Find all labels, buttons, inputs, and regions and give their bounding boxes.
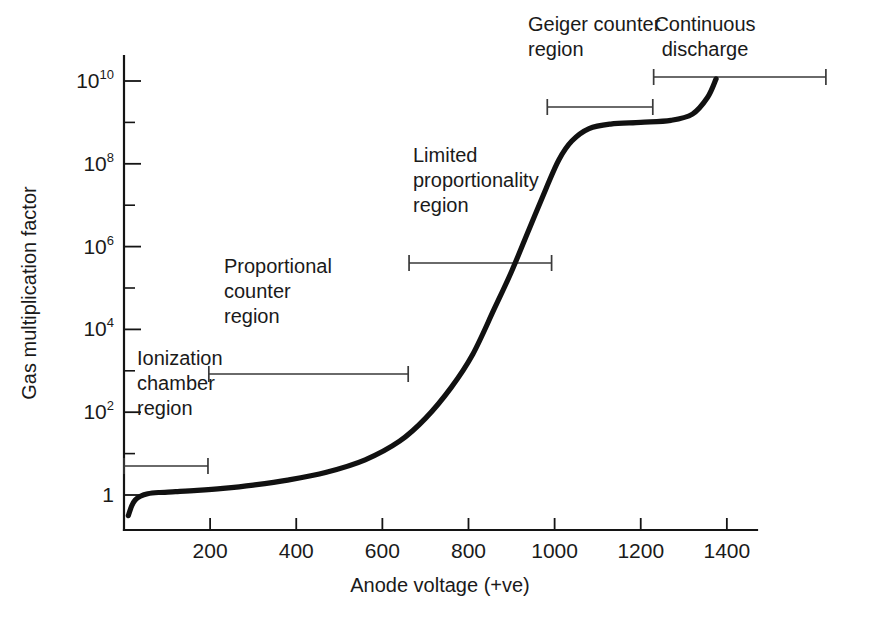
- x-axis-title: Anode voltage (+ve): [350, 574, 530, 596]
- region-label-ionization-chamber-line-1: Ionization: [137, 347, 223, 369]
- region-label-ionization-chamber-line-3: region: [137, 397, 193, 419]
- x-tick-label-1200: 1200: [617, 539, 664, 562]
- region-label-ionization-chamber-line-2: chamber: [137, 372, 215, 394]
- region-label-limited-proportionality-line-3: region: [413, 194, 469, 216]
- region-label-geiger-counter-line-2: region: [528, 38, 584, 60]
- region-label-proportional-counter-line-1: Proportional: [224, 255, 332, 277]
- x-tick-label-200: 200: [193, 539, 228, 562]
- region-label-limited-proportionality-line-1: Limited: [413, 144, 477, 166]
- x-tick-label-600: 600: [365, 539, 400, 562]
- x-tick-label-800: 800: [451, 539, 486, 562]
- region-label-continuous-discharge-line-2: discharge: [662, 38, 749, 60]
- region-label-continuous-discharge-line-1: Continuous: [654, 13, 755, 35]
- gas-multiplication-chart: 10101081061041021 2004006008001000120014…: [0, 0, 875, 620]
- chart-background: [0, 0, 875, 620]
- chart-canvas: 10101081061041021 2004006008001000120014…: [0, 0, 875, 620]
- region-label-proportional-counter-line-3: region: [224, 305, 280, 327]
- y-axis-title: Gas multiplication factor: [18, 186, 40, 400]
- x-tick-label-1000: 1000: [531, 539, 578, 562]
- y-tick-label-0: 1: [102, 483, 114, 506]
- x-tick-label-1400: 1400: [703, 539, 750, 562]
- region-label-limited-proportionality-line-2: proportionality: [413, 169, 539, 191]
- region-label-proportional-counter-line-2: counter: [224, 280, 291, 302]
- x-tick-label-400: 400: [279, 539, 314, 562]
- region-label-geiger-counter-line-1: Geiger counter: [528, 13, 661, 35]
